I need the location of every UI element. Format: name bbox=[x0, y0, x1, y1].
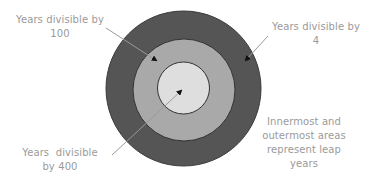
label-4-line2: 4 bbox=[270, 34, 362, 48]
label-400-line2: by 400 bbox=[14, 160, 106, 174]
label-4-line1: Years divisible by bbox=[270, 20, 362, 34]
note-line3: represent leap bbox=[254, 143, 354, 157]
inner-circle-divisible-by-400 bbox=[158, 62, 210, 114]
label-divisible-by-100: Years divisible by 100 bbox=[14, 13, 106, 41]
leap-year-note: Innermost and outermost areas represent … bbox=[254, 115, 354, 171]
label-divisible-by-4: Years divisible by 4 bbox=[270, 20, 362, 48]
label-100-line2: 100 bbox=[14, 27, 106, 41]
label-100-line1: Years divisible by bbox=[14, 13, 106, 27]
label-divisible-by-400: Years divisible by 400 bbox=[14, 146, 106, 174]
note-line1: Innermost and bbox=[254, 115, 354, 129]
label-400-line1: Years divisible bbox=[14, 146, 106, 160]
note-line4: years bbox=[254, 157, 354, 171]
note-line2: outermost areas bbox=[254, 129, 354, 143]
